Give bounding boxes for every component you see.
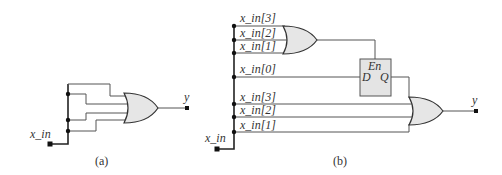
or-gate-b-upper xyxy=(283,26,317,54)
caption-b: (b) xyxy=(333,154,347,168)
junction-dot xyxy=(232,130,236,134)
junction-dot xyxy=(232,102,236,106)
or-gate-a xyxy=(124,93,158,123)
output-label-b: y xyxy=(471,93,478,107)
label-lower-in1: x_in[1] xyxy=(239,118,276,132)
part-a: y x_in (a) xyxy=(29,84,190,168)
circuit-diagram: y x_in (a) x_in[3] x_in[2] x_in[1] x_in[… xyxy=(0,0,502,175)
label-upper-in2: x_in[2] xyxy=(239,26,276,40)
input-label-a: x_in xyxy=(29,127,51,141)
wire-a-tap3 xyxy=(68,113,128,120)
junction-dot xyxy=(232,24,236,28)
part-b: x_in[3] x_in[2] x_in[1] x_in[0] En D Q x… xyxy=(204,11,478,168)
caption-a: (a) xyxy=(95,154,108,168)
latch-d-label: D xyxy=(361,70,371,84)
junction-dot xyxy=(66,92,70,96)
output-terminal-b xyxy=(474,109,478,113)
junction-dot xyxy=(66,118,70,122)
input-terminal-a xyxy=(48,142,53,147)
input-label-b: x_in xyxy=(204,131,226,145)
label-lower-in3: x_in[3] xyxy=(239,90,276,104)
latch-q-label: Q xyxy=(380,70,389,84)
label-latch-in0: x_in[0] xyxy=(239,62,276,76)
wire-a-tap4 xyxy=(68,120,126,131)
input-terminal-b xyxy=(215,147,220,152)
label-lower-in2: x_in[2] xyxy=(239,103,276,117)
label-upper-in3: x_in[3] xyxy=(239,11,276,25)
junction-dot xyxy=(232,75,236,79)
junction-dot xyxy=(232,38,236,42)
output-label-a: y xyxy=(183,90,190,104)
q-wire xyxy=(391,77,409,98)
junction-dot xyxy=(232,115,236,119)
enable-wire xyxy=(317,40,375,59)
label-upper-in1: x_in[1] xyxy=(239,39,276,53)
junction-dot xyxy=(232,51,236,55)
junction-dot xyxy=(66,129,70,133)
or-gate-b-lower xyxy=(409,97,443,125)
output-terminal-a xyxy=(185,106,189,110)
input-bus-a xyxy=(50,84,68,144)
